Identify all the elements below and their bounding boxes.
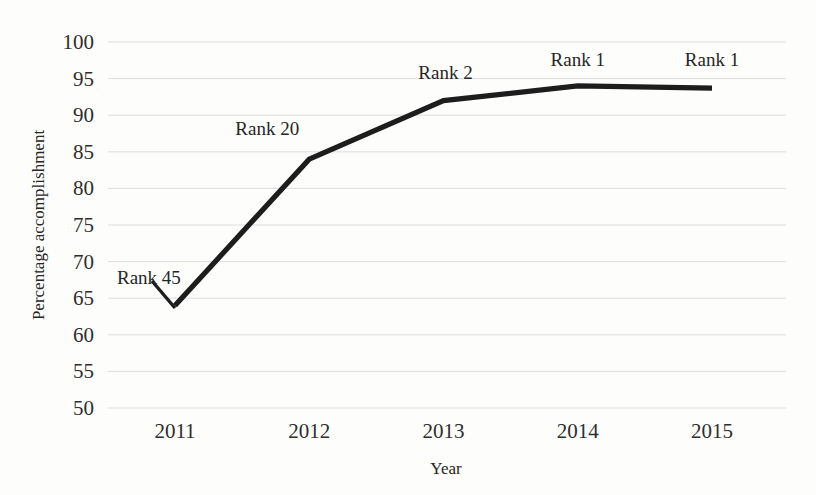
y-tick-label: 95 <box>73 67 94 91</box>
data-point-annotation: Rank 1 <box>685 49 739 70</box>
y-tick-label: 90 <box>73 103 94 127</box>
x-axis-title: Year <box>430 459 462 478</box>
line-chart: 50556065707580859095100 2011201220132014… <box>0 0 816 495</box>
x-tick-label: 2011 <box>154 419 195 443</box>
y-tick-label: 100 <box>63 30 95 54</box>
y-tick-label: 85 <box>73 140 94 164</box>
y-tick-label: 55 <box>73 359 94 383</box>
chart-container: 50556065707580859095100 2011201220132014… <box>0 0 816 495</box>
y-tick-label: 70 <box>73 250 94 274</box>
data-point-annotation: Rank 2 <box>418 62 472 83</box>
x-tick-label: 2014 <box>557 419 600 443</box>
data-point-annotation: Rank 45 <box>117 267 181 288</box>
y-tick-label: 80 <box>73 176 94 200</box>
x-tick-label: 2012 <box>288 419 330 443</box>
y-tick-label: 60 <box>73 323 94 347</box>
data-point-annotation: Rank 20 <box>235 118 299 139</box>
y-tick-label: 50 <box>73 396 94 420</box>
x-tick-label: 2015 <box>691 419 733 443</box>
data-point-annotation: Rank 1 <box>551 49 605 70</box>
y-tick-label: 75 <box>73 213 94 237</box>
y-tick-label: 65 <box>73 286 94 310</box>
y-axis-title: Percentage accomplishment <box>29 130 48 321</box>
x-tick-label: 2013 <box>423 419 465 443</box>
